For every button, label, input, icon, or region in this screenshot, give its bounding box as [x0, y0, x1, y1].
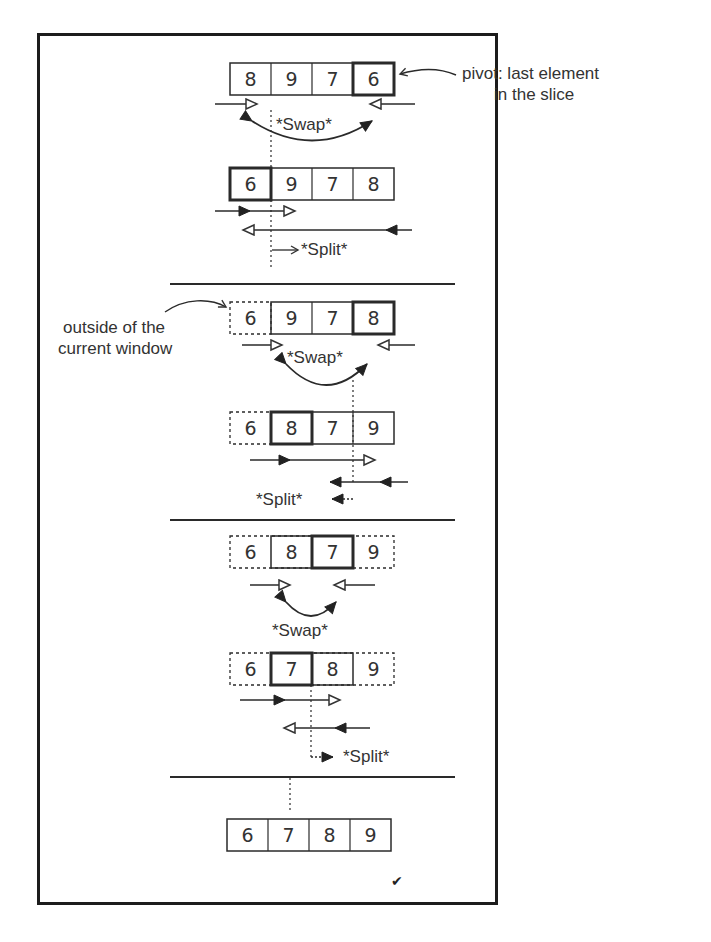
split-label: *Split* [301, 239, 347, 261]
array-cell: 8 [309, 824, 350, 846]
checkmark-icon: ✔ [391, 870, 403, 892]
swap-arrow [286, 602, 336, 616]
pivot-annotation: pivot: last element [462, 63, 599, 85]
array-cell: 7 [312, 307, 353, 329]
pivot-cell-value: 8 [353, 307, 394, 329]
array-cell: 8 [312, 658, 353, 680]
array-cell: 9 [271, 307, 312, 329]
array-cell: 7 [312, 68, 353, 90]
outside-cell-value: 9 [353, 658, 394, 680]
array-cell: 7 [312, 417, 353, 439]
pivot-cell-value: 6 [230, 173, 271, 195]
array-cell: 7 [268, 824, 309, 846]
quicksort-diagram [0, 0, 711, 942]
outside-annotation: current window [58, 338, 172, 360]
array-cell: 9 [271, 173, 312, 195]
stage-3 [230, 536, 394, 757]
pivot-cell-value: 7 [271, 658, 312, 680]
array-cell: 8 [271, 541, 312, 563]
split-label: *Split* [343, 746, 389, 768]
array-cell: 9 [353, 417, 394, 439]
stage-2 [165, 301, 415, 499]
split-label: *Split* [256, 489, 302, 511]
outside-annotation: outside of the [63, 317, 165, 339]
outside-cell-value: 6 [230, 417, 271, 439]
array-cell: 8 [230, 68, 271, 90]
pivot-annotation: in the slice [494, 84, 574, 106]
pivot-cell-value: 8 [271, 417, 312, 439]
swap-label: *Swap* [287, 347, 343, 369]
array-cell: 6 [227, 824, 268, 846]
outside-cell-value: 6 [230, 658, 271, 680]
swap-label: *Swap* [276, 114, 332, 136]
array-cell: 9 [271, 68, 312, 90]
pivot-annotation-arrow [400, 70, 456, 75]
array-cell: 7 [312, 173, 353, 195]
pivot-cell-value: 7 [312, 541, 353, 563]
swap-label: *Swap* [272, 620, 328, 642]
outside-cell-value: 9 [353, 541, 394, 563]
outside-annotation-arrow [165, 301, 226, 312]
outside-cell-value: 6 [230, 541, 271, 563]
stage-1 [215, 63, 456, 268]
array-cell: 8 [353, 173, 394, 195]
outside-cell-value: 6 [230, 307, 271, 329]
array-cell: 9 [350, 824, 391, 846]
pivot-cell-value: 6 [353, 68, 394, 90]
